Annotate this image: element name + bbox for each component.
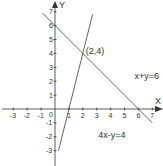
x-tick-label: -1 (38, 112, 44, 119)
line-x-y-6 (42, 13, 152, 123)
axes: XY (2, 0, 163, 166)
y-tick-label: 4 (49, 50, 53, 57)
y-tick-label: -1 (46, 119, 52, 126)
x-tick-label: 4 (109, 112, 113, 119)
annotation-label: x+y=6 (134, 71, 159, 81)
y-axis-label: Y (59, 0, 65, 10)
x-axis-label: X (155, 96, 161, 106)
x-tick-label: 7 (150, 112, 154, 119)
x-axis-arrow-icon (155, 106, 163, 112)
y-tick-label: -3 (46, 147, 52, 154)
y-tick-label: 5 (49, 36, 53, 43)
y-tick-label: -2 (46, 133, 52, 140)
x-tick-label: -3 (10, 112, 16, 119)
coordinate-plane: XY -3-2-101234567-3-2-11234567 (2,4)x+y=… (0, 0, 163, 166)
x-tick-label: 2 (81, 112, 85, 119)
y-tick-label: 1 (49, 92, 53, 99)
y-tick-label: 3 (49, 64, 53, 71)
origin-label: 0 (49, 111, 53, 118)
line-4x-y-4 (58, 14, 92, 150)
annotation-label: 4x-y=4 (98, 130, 125, 140)
x-tick-label: 5 (123, 112, 127, 119)
chart-svg: XY -3-2-101234567-3-2-11234567 (2,4)x+y=… (0, 0, 163, 166)
x-tick-label: -2 (24, 112, 30, 119)
y-tick-label: 2 (49, 78, 53, 85)
y-tick-label: 7 (49, 8, 53, 15)
y-axis-arrow-icon (52, 1, 58, 8)
axis-ticks: -3-2-101234567-3-2-11234567 (10, 8, 155, 154)
x-tick-label: 6 (136, 112, 140, 119)
x-tick-label: 3 (95, 112, 99, 119)
annotation-label: (2,4) (86, 46, 105, 56)
